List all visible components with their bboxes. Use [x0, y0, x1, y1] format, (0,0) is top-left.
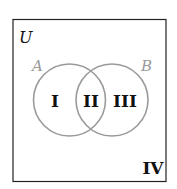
region-ii-label: II — [83, 91, 99, 111]
venn-diagram: U A B I II III IV — [0, 0, 177, 189]
set-b-label: B — [140, 57, 152, 75]
region-i-label: I — [51, 91, 59, 111]
set-a-label: A — [30, 57, 43, 75]
universe-label: U — [19, 28, 33, 47]
region-iii-label: III — [113, 91, 137, 111]
region-iv-label: IV — [142, 158, 164, 178]
